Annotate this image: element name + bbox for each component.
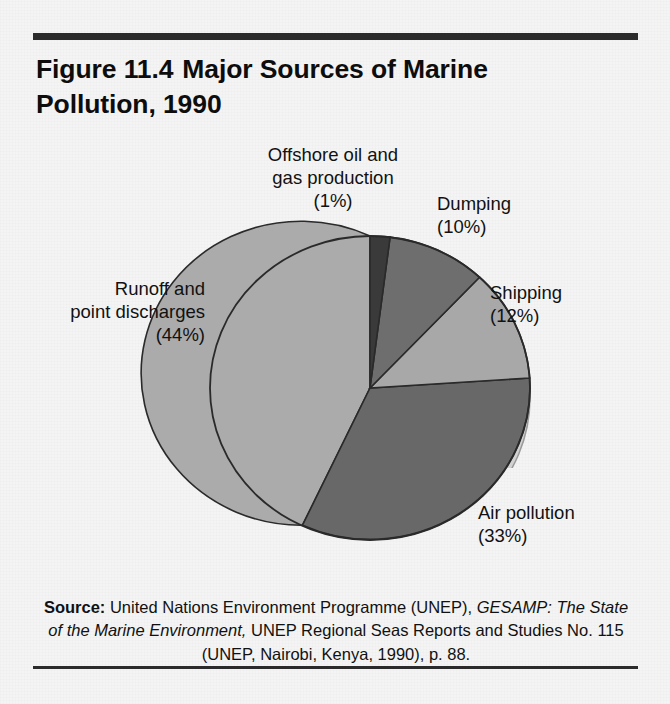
label-shipping: Shipping (12%) <box>490 282 640 328</box>
top-divider-rule <box>33 33 638 40</box>
bottom-divider-rule <box>33 666 638 669</box>
figure-title-text: Major Sources of Marine <box>182 54 487 84</box>
source-label: Source: <box>44 598 105 616</box>
pie-chart: Offshore oil and gas production (1%) Dum… <box>0 130 670 592</box>
source-text-part1: United Nations Environment Programme (UN… <box>105 598 476 616</box>
label-offshore-oil: Offshore oil and gas production (1%) <box>243 144 423 213</box>
figure-title-text-cont: Pollution, 1990 <box>36 89 222 119</box>
figure-panel: Figure 11.4Major Sources of Marine Pollu… <box>0 0 670 704</box>
figure-title: Figure 11.4Major Sources of Marine Pollu… <box>36 52 596 122</box>
pie-slices <box>141 221 530 539</box>
label-runoff: Runoff and point discharges (44%) <box>10 278 205 347</box>
source-citation: Source: United Nations Environment Progr… <box>36 596 636 666</box>
figure-title-number: Figure 11.4 <box>36 54 173 84</box>
label-air-pollution: Air pollution (33%) <box>478 502 648 548</box>
label-dumping: Dumping (10%) <box>437 193 587 239</box>
source-text-part2: UNEP Regional Seas Reports and Studies N… <box>202 621 624 662</box>
